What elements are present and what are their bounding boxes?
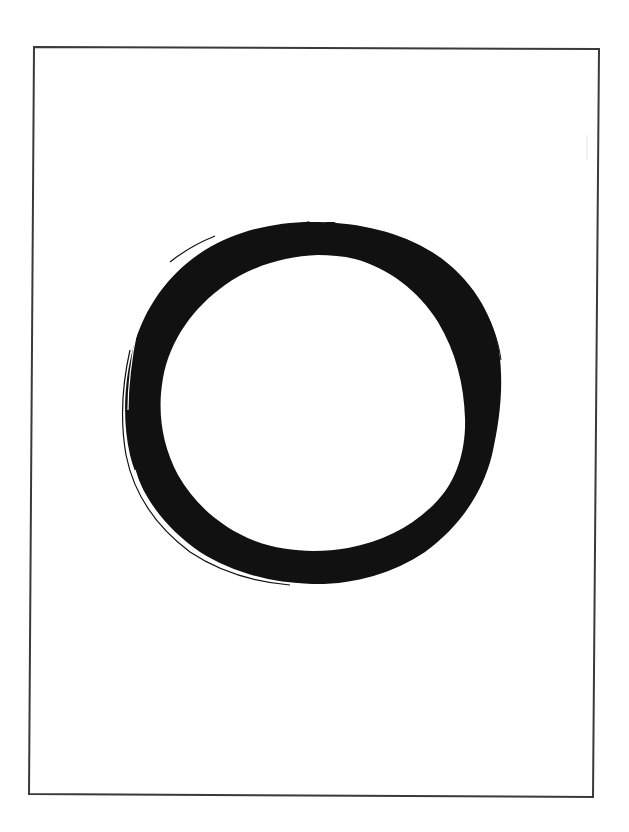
figure-canvas (0, 0, 629, 832)
frame-border (29, 47, 599, 797)
enso-figure (0, 0, 629, 832)
